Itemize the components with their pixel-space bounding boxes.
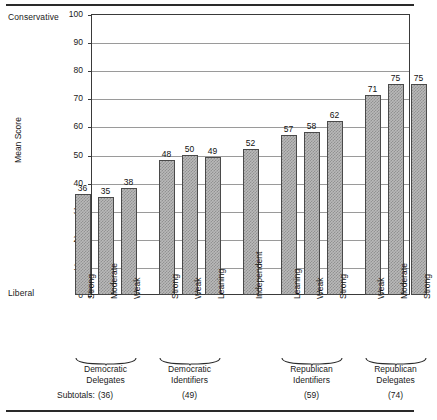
gridline xyxy=(92,43,409,44)
y-tick-mark xyxy=(88,15,92,16)
group-brace xyxy=(365,352,427,361)
group-subtotal: (74) xyxy=(366,390,426,400)
x-tick-label: Moderate xyxy=(109,263,119,299)
y-tick-label: 100 xyxy=(23,14,83,15)
group-subtotal: (59) xyxy=(282,390,342,400)
x-tick-label: Weak xyxy=(132,277,142,299)
group-subtotal: (49) xyxy=(160,390,220,400)
gridline xyxy=(92,127,409,128)
axis-pole-liberal: Liberal xyxy=(8,288,34,298)
group-brace xyxy=(75,352,137,361)
bar-value-label: 52 xyxy=(237,138,265,148)
x-tick-label: Moderate xyxy=(399,263,409,299)
x-tick-label: Weak xyxy=(315,277,325,299)
bar-value-label: 58 xyxy=(298,121,326,131)
y-tick-label: 60 xyxy=(23,126,83,127)
y-tick-mark xyxy=(88,127,92,128)
group-subtotal: (36) xyxy=(76,390,136,400)
bar xyxy=(327,121,343,295)
bar xyxy=(182,155,198,296)
bottom-rule xyxy=(6,410,414,412)
x-tick-label: Weak xyxy=(376,277,386,299)
y-tick-label: 0 xyxy=(23,295,83,296)
x-tick-label: Strong xyxy=(422,274,432,299)
group-caption-line: Democratic xyxy=(135,364,245,375)
y-tick-mark xyxy=(88,71,92,72)
x-tick-label: Weak xyxy=(193,277,203,299)
gridline xyxy=(92,71,409,72)
bar xyxy=(304,132,320,295)
y-tick-mark xyxy=(88,43,92,44)
bar-value-label: 71 xyxy=(359,84,387,94)
y-tick-label: 80 xyxy=(23,70,83,71)
group-caption-line: Republican xyxy=(341,364,437,375)
bar-value-label: 49 xyxy=(199,146,227,156)
x-tick-label: Leaning xyxy=(292,269,302,299)
group-caption-line: Identifiers xyxy=(135,375,245,386)
bar-value-label: 38 xyxy=(115,177,143,187)
x-tick-label: Independent xyxy=(254,252,264,299)
bar xyxy=(365,95,381,295)
y-axis-label: Mean Score xyxy=(13,100,23,180)
gridline xyxy=(92,99,409,100)
group-caption: DemocraticIdentifiers xyxy=(135,364,245,385)
x-tick-label: Strong xyxy=(86,274,96,299)
y-tick-label: 50 xyxy=(23,155,83,156)
group-caption-line: Delegates xyxy=(341,375,437,386)
y-tick-label: 70 xyxy=(23,98,83,99)
x-tick-label: Leaning xyxy=(216,269,226,299)
x-tick-label: Strong xyxy=(170,274,180,299)
bar-value-label: 75 xyxy=(405,73,433,83)
y-tick-mark xyxy=(88,99,92,100)
y-tick-mark xyxy=(88,156,92,157)
group-brace xyxy=(281,352,343,361)
group-brace xyxy=(159,352,221,361)
group-caption: RepublicanDelegates xyxy=(341,364,437,385)
bar xyxy=(411,84,427,295)
bar-value-label: 62 xyxy=(321,110,349,120)
x-tick-label: Strong xyxy=(338,274,348,299)
y-tick-label: 90 xyxy=(23,42,83,43)
top-rule xyxy=(6,4,414,6)
